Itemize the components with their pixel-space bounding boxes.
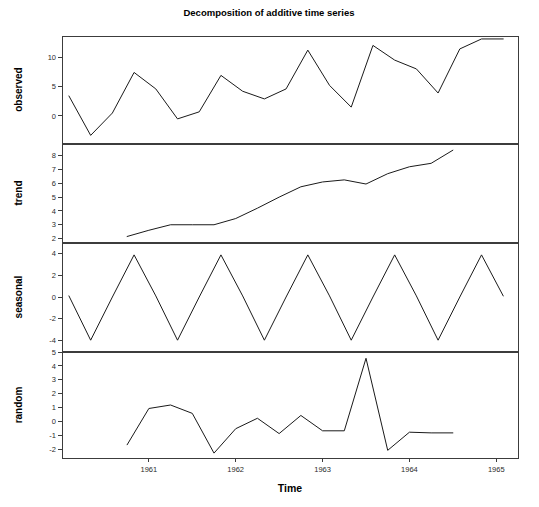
ytick-label-random-5: 3 [52,375,56,384]
ytick-label-random-4: 2 [52,389,56,398]
series-line-random [127,358,453,453]
yaxis-label-random: random [13,387,24,424]
panel-frame-random [62,352,518,458]
ytick-label-random-1: -1 [49,431,56,440]
ytick-label-trend-4: 6 [52,179,56,188]
ytick-label-seasonal-0: -4 [49,336,56,345]
ytick-label-trend-0: 2 [52,234,56,243]
yaxis-label-observed: observed [13,67,24,111]
ytick-label-random-2: 0 [52,417,56,426]
ytick-label-observed-0: 0 [52,112,56,121]
ytick-label-observed-2: 10 [48,53,56,62]
series-line-observed [69,39,503,135]
series-line-seasonal [69,255,503,340]
xtick-label-1: 1962 [227,465,244,474]
panel-frame-trend [62,144,518,242]
yaxis-label-trend: trend [13,181,24,206]
ytick-label-trend-5: 7 [52,165,56,174]
ytick-label-random-3: 1 [52,403,56,412]
ytick-label-seasonal-4: 4 [52,249,56,258]
xtick-label-4: 1965 [488,465,505,474]
series-line-trend [127,150,453,236]
xtick-label-2: 1963 [314,465,331,474]
ytick-label-seasonal-3: 2 [52,271,56,280]
xtick-label-3: 1964 [401,465,418,474]
ytick-label-observed-1: 5 [52,82,56,91]
ytick-label-random-7: 5 [52,348,56,357]
ytick-label-trend-1: 3 [52,220,56,229]
ytick-label-trend-3: 5 [52,193,56,202]
xtick-label-0: 1961 [141,465,158,474]
ytick-label-trend-2: 4 [52,207,56,216]
ytick-label-seasonal-1: -2 [49,314,56,323]
yaxis-label-seasonal: seasonal [13,275,24,318]
ytick-label-random-0: -2 [49,445,56,454]
plot-canvas: Decomposition of additive time series051… [0,0,539,507]
ytick-label-trend-6: 8 [52,151,56,160]
panel-frame-seasonal [62,243,518,351]
xaxis-label: Time [278,482,302,494]
ytick-label-seasonal-2: 0 [52,293,56,302]
decomposition-plot-figure: Decomposition of additive time series051… [0,0,539,507]
panel-frame-observed [62,36,518,143]
ytick-label-random-6: 4 [52,362,56,371]
chart-title: Decomposition of additive time series [183,7,354,18]
